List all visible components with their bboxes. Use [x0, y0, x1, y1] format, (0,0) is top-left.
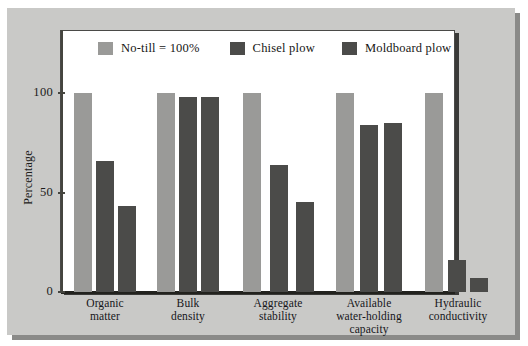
- bar-bulk-density-no-till: [157, 93, 175, 292]
- x-category-line: Available: [324, 297, 414, 310]
- x-category-label-hydraulic-conductivity: Hydraulic conductivity: [412, 297, 504, 323]
- bar-aggregate-stability-moldboard-plow: [296, 202, 314, 292]
- x-category-line: capacity: [324, 323, 414, 336]
- x-category-line: stability: [238, 310, 318, 323]
- bar-organic-matter-no-till: [74, 93, 92, 292]
- x-category-line: Hydraulic: [412, 297, 504, 310]
- x-category-line: Organic: [65, 297, 145, 310]
- bar-aggregate-stability-no-till: [243, 93, 261, 292]
- x-category-label-available-water-holding-capacity: Available water-holding capacity: [324, 297, 414, 336]
- bar-aggregate-stability-chisel-plow: [270, 165, 288, 292]
- x-category-line: water-holding: [324, 310, 414, 323]
- x-category-line: Aggregate: [238, 297, 318, 310]
- x-category-label-organic-matter: Organic matter: [65, 297, 145, 323]
- bar-available-water-holding-capacity-moldboard-plow: [384, 123, 402, 292]
- x-category-label-bulk-density: Bulk density: [148, 297, 228, 323]
- bar-bulk-density-chisel-plow: [179, 97, 197, 292]
- x-category-line: matter: [65, 310, 145, 323]
- x-category-line: density: [148, 310, 228, 323]
- bar-hydraulic-conductivity-chisel-plow: [448, 260, 466, 292]
- bar-available-water-holding-capacity-no-till: [336, 93, 354, 292]
- bar-hydraulic-conductivity-no-till: [425, 93, 443, 292]
- bar-organic-matter-moldboard-plow: [118, 206, 136, 292]
- bars-layer: [0, 0, 528, 346]
- x-category-label-aggregate-stability: Aggregate stability: [238, 297, 318, 323]
- bar-organic-matter-chisel-plow: [96, 161, 114, 292]
- bar-available-water-holding-capacity-chisel-plow: [360, 125, 378, 292]
- bar-hydraulic-conductivity-moldboard-plow: [470, 278, 488, 292]
- bar-bulk-density-moldboard-plow: [201, 97, 219, 292]
- figure-container: No-till = 100% Chisel plow Moldboard plo…: [0, 0, 528, 346]
- x-category-line: conductivity: [412, 310, 504, 323]
- x-category-line: Bulk: [148, 297, 228, 310]
